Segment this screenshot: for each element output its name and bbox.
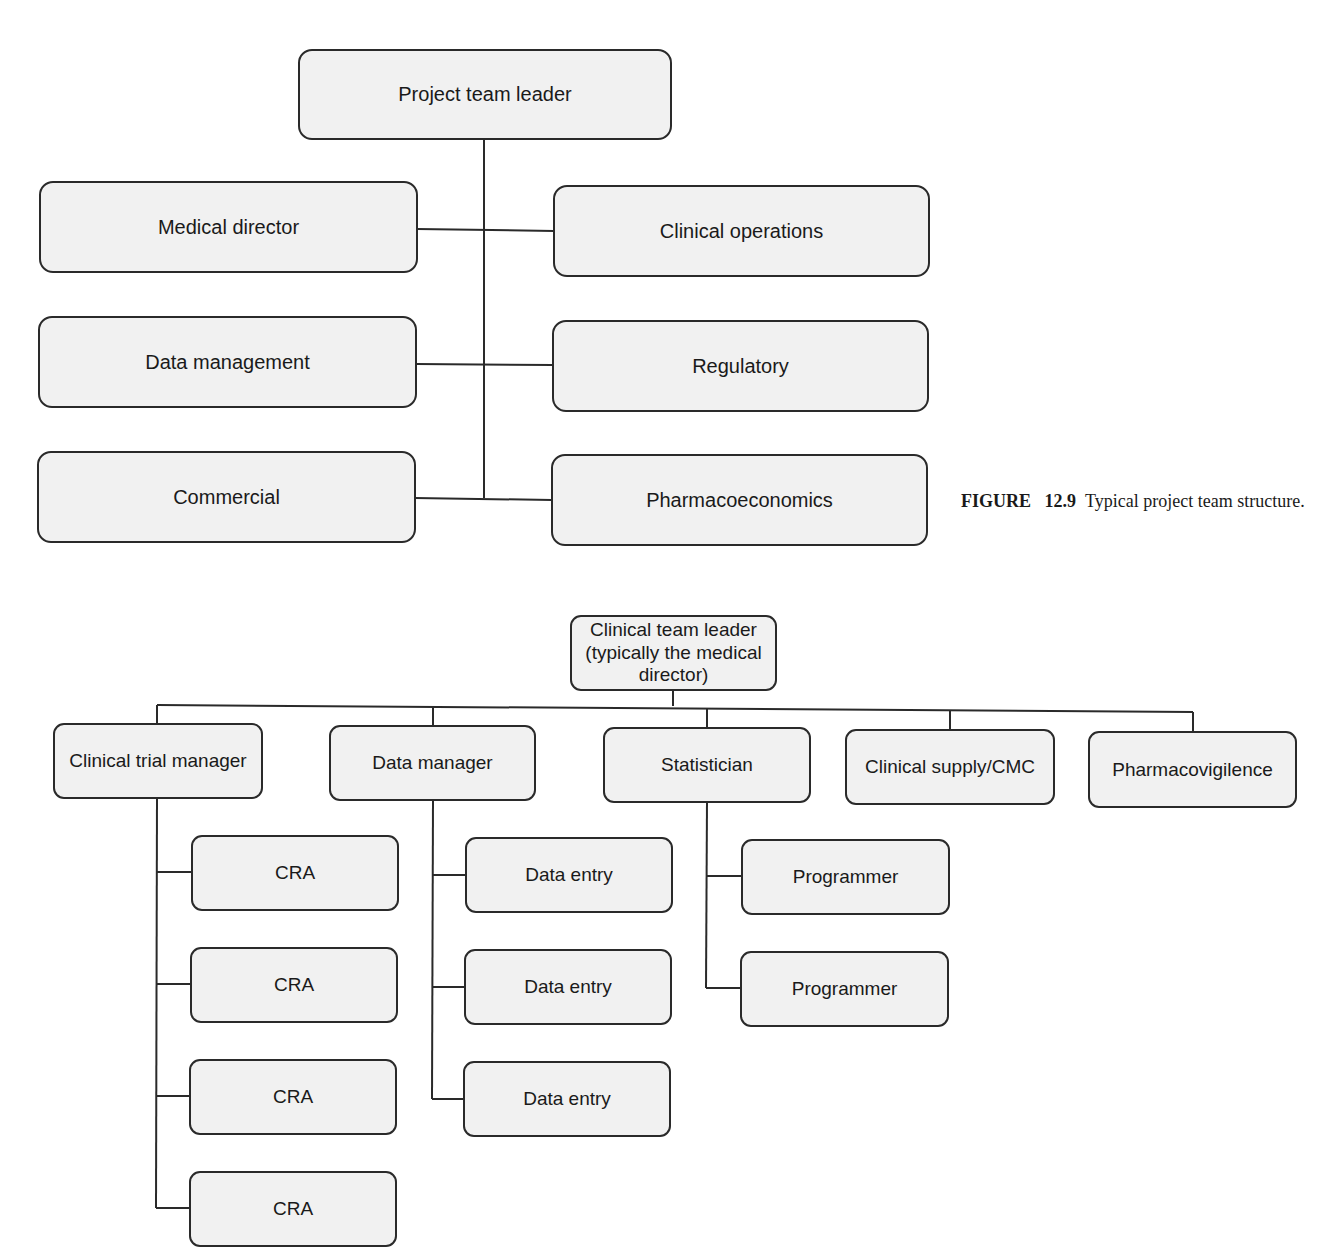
clinical-supply-cmc-label: Clinical supply/CMC [865, 756, 1035, 778]
cra-box-4: CRA [189, 1171, 397, 1247]
data-management-box: Data management [38, 316, 417, 408]
cra-label: CRA [274, 974, 314, 996]
medical-director-box: Medical director [39, 181, 418, 273]
pharmacoeconomics-box: Pharmacoeconomics [551, 454, 928, 546]
data-entry-label: Data entry [525, 864, 613, 886]
cra-box-2: CRA [190, 947, 398, 1023]
figure-caption: FIGURE 12.9 Typical project team structu… [961, 491, 1319, 513]
medical-director-label: Medical director [158, 216, 299, 239]
pharmacovigilence-label: Pharmacovigilence [1112, 759, 1273, 781]
data-entry-box-1: Data entry [465, 837, 673, 913]
pharmacoeconomics-label: Pharmacoeconomics [646, 489, 833, 512]
clinical-operations-box: Clinical operations [553, 185, 930, 277]
commercial-box: Commercial [37, 451, 416, 543]
data-entry-label: Data entry [523, 1088, 611, 1110]
programmer-label: Programmer [793, 866, 899, 888]
project-team-leader-label: Project team leader [398, 83, 571, 106]
clinical-trial-manager-label: Clinical trial manager [69, 750, 246, 772]
regulatory-label: Regulatory [692, 355, 789, 378]
programmer-label: Programmer [792, 978, 898, 1000]
clinical-team-leader-box: Clinical team leader (typically the medi… [570, 615, 777, 691]
org-chart-page: Project team leader Medical director Dat… [0, 0, 1338, 1258]
clinical-supply-cmc-box: Clinical supply/CMC [845, 729, 1055, 805]
clinical-team-leader-line-3: director) [639, 664, 709, 687]
cra-box-3: CRA [189, 1059, 397, 1135]
cra-label: CRA [275, 862, 315, 884]
regulatory-box: Regulatory [552, 320, 929, 412]
data-entry-box-3: Data entry [463, 1061, 671, 1137]
data-entry-box-2: Data entry [464, 949, 672, 1025]
figure-label: FIGURE 12.9 [961, 491, 1076, 511]
clinical-trial-manager-box: Clinical trial manager [53, 723, 263, 799]
project-team-leader-box: Project team leader [298, 49, 672, 140]
data-entry-label: Data entry [524, 976, 612, 998]
data-management-label: Data management [145, 351, 310, 374]
clinical-operations-label: Clinical operations [660, 220, 823, 243]
pharmacovigilence-box: Pharmacovigilence [1088, 731, 1297, 808]
statistician-label: Statistician [661, 754, 753, 776]
commercial-label: Commercial [173, 486, 280, 509]
cra-label: CRA [273, 1198, 313, 1220]
clinical-team-leader-line-1: Clinical team leader [590, 619, 757, 642]
programmer-box-1: Programmer [741, 839, 950, 915]
cra-label: CRA [273, 1086, 313, 1108]
figure-caption-text: Typical project team structure. [1085, 491, 1305, 511]
data-manager-label: Data manager [372, 752, 492, 774]
programmer-box-2: Programmer [740, 951, 949, 1027]
clinical-team-leader-line-2: (typically the medical [585, 642, 761, 665]
cra-box-1: CRA [191, 835, 399, 911]
statistician-box: Statistician [603, 727, 811, 803]
data-manager-box: Data manager [329, 725, 536, 801]
